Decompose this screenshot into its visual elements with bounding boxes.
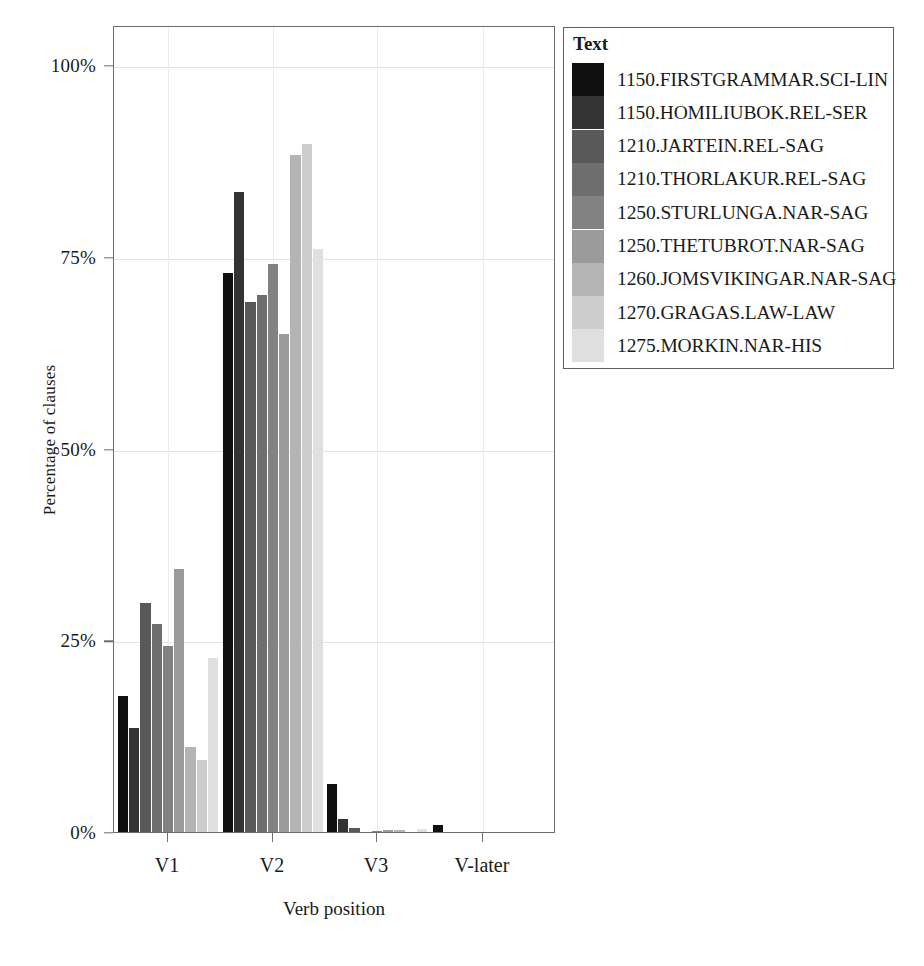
y-tick-label: 0% xyxy=(70,822,96,844)
legend-color-swatch xyxy=(572,130,604,163)
legend-entry-label: 1250.THETUBROT.NAR-SAG xyxy=(617,235,865,257)
x-axis-line xyxy=(113,832,555,833)
x-tick-label: V2 xyxy=(260,854,284,877)
legend-color-swatch xyxy=(572,163,604,196)
legend-entry[interactable]: 1210.JARTEIN.REL-SAG xyxy=(572,130,824,163)
legend-entry[interactable]: 1210.THORLAKUR.REL-SAG xyxy=(572,163,866,196)
legend-entry-label: 1210.THORLAKUR.REL-SAG xyxy=(617,168,866,190)
y-tick-mark xyxy=(104,257,113,258)
y-tick-mark xyxy=(104,832,113,833)
x-tick-mark xyxy=(272,833,273,842)
y-tick-mark xyxy=(104,641,113,642)
bar xyxy=(118,696,128,833)
bar xyxy=(327,784,337,833)
x-tick-mark xyxy=(376,833,377,842)
legend-entry-label: 1270.GRAGAS.LAW-LAW xyxy=(617,302,835,324)
bar xyxy=(174,569,184,833)
legend-entry-label: 1250.STURLUNGA.NAR-SAG xyxy=(617,202,868,224)
vertical-gridline xyxy=(483,27,484,833)
legend-color-swatch xyxy=(572,230,604,263)
legend-entry-label: 1210.JARTEIN.REL-SAG xyxy=(617,135,824,157)
bar xyxy=(234,192,244,833)
y-tick-label: 100% xyxy=(51,55,96,77)
x-axis-title: Verb position xyxy=(113,898,555,920)
legend-box: Text 1150.FIRSTGRAMMAR.SCI-LIN1150.HOMIL… xyxy=(563,27,894,369)
bar xyxy=(208,658,218,833)
legend-entry-label: 1275.MORKIN.NAR-HIS xyxy=(617,335,822,357)
bar xyxy=(152,624,162,833)
legend-color-swatch xyxy=(572,263,604,296)
legend-color-swatch xyxy=(572,329,604,362)
y-tick-mark xyxy=(104,449,113,450)
legend-entry[interactable]: 1250.STURLUNGA.NAR-SAG xyxy=(572,196,868,229)
bar xyxy=(313,249,323,833)
x-tick-label: V1 xyxy=(155,854,179,877)
gridline xyxy=(114,67,554,68)
x-tick-mark xyxy=(167,833,168,842)
legend-entry[interactable]: 1275.MORKIN.NAR-HIS xyxy=(572,329,822,362)
gridline xyxy=(114,259,554,260)
x-tick-label: V3 xyxy=(364,854,388,877)
bar xyxy=(302,144,312,833)
bar xyxy=(197,760,207,833)
legend-entry[interactable]: 1150.HOMILIUBOK.REL-SER xyxy=(572,96,867,129)
bar xyxy=(257,295,267,833)
y-tick-label: 50% xyxy=(61,439,96,461)
bar xyxy=(163,646,173,833)
bar xyxy=(268,264,278,833)
bar xyxy=(245,302,255,833)
legend-color-swatch xyxy=(572,296,604,329)
legend-color-swatch xyxy=(572,63,604,96)
bar xyxy=(185,747,195,833)
bar xyxy=(279,334,289,833)
y-tick-label: 75% xyxy=(61,247,96,269)
legend-entry[interactable]: 1260.JOMSVIKINGAR.NAR-SAG xyxy=(572,263,896,296)
bar xyxy=(140,603,150,833)
legend-color-swatch xyxy=(572,96,604,129)
legend-color-swatch xyxy=(572,196,604,229)
legend-entry-label: 1150.HOMILIUBOK.REL-SER xyxy=(617,102,867,124)
x-tick-label: V-later xyxy=(455,854,510,877)
bar xyxy=(290,155,300,833)
bar xyxy=(338,819,348,833)
y-tick-label: 25% xyxy=(61,630,96,652)
x-tick-mark xyxy=(482,833,483,842)
legend-entry[interactable]: 1250.THETUBROT.NAR-SAG xyxy=(572,230,865,263)
legend-entry-label: 1150.FIRSTGRAMMAR.SCI-LIN xyxy=(617,69,888,91)
legend-entry[interactable]: 1270.GRAGAS.LAW-LAW xyxy=(572,296,835,329)
legend-title: Text xyxy=(573,33,608,55)
bar xyxy=(223,273,233,833)
y-axis-title: Percentage of clauses xyxy=(40,315,60,565)
legend-entry-label: 1260.JOMSVIKINGAR.NAR-SAG xyxy=(617,268,896,290)
gridline xyxy=(114,451,554,452)
plot-panel xyxy=(113,26,555,833)
bar xyxy=(129,728,139,833)
y-tick-mark xyxy=(104,65,113,66)
vertical-gridline xyxy=(377,27,378,833)
legend-entry[interactable]: 1150.FIRSTGRAMMAR.SCI-LIN xyxy=(572,63,888,96)
